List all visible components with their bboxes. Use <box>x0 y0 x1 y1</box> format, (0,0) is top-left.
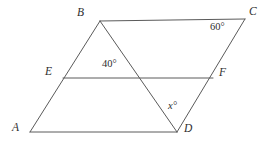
vertex-label-b: B <box>77 7 84 19</box>
geometry-figure: B C E F A D 60° 40° x° <box>0 0 269 145</box>
vertex-label-d: D <box>184 123 192 135</box>
segment-bd <box>100 21 177 132</box>
segment-cd <box>177 19 245 132</box>
geometry-canvas <box>0 0 269 145</box>
vertex-label-a: A <box>12 122 19 134</box>
angle-label-40-degrees: 40° <box>102 59 117 70</box>
segment-ab <box>30 21 100 132</box>
angle-label-x-degrees: x° <box>168 101 177 112</box>
vertex-label-e: E <box>45 66 52 78</box>
angle-label-60-degrees: 60° <box>210 22 225 33</box>
vertex-label-c: C <box>249 6 257 18</box>
vertex-label-f: F <box>219 67 226 79</box>
